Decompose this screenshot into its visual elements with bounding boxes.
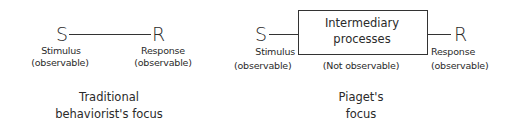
caption-line2: focus: [346, 109, 377, 121]
box-line2: processes: [333, 34, 390, 46]
stimulus-symbol: S: [56, 25, 68, 44]
s-box-connector: [269, 34, 299, 35]
stimulus-sublabel: (observable): [31, 58, 89, 68]
caption-line1: Traditional: [79, 92, 139, 104]
caption-line1: Piaget's: [339, 92, 384, 104]
box-r-connector: [428, 34, 451, 35]
stimulus-label: Stimulus: [41, 46, 81, 56]
stimulus-symbol: S: [255, 25, 267, 44]
response-symbol: R: [152, 25, 165, 44]
s-r-connector: [69, 34, 151, 35]
response-symbol: R: [454, 25, 467, 44]
response-sublabel: (observable): [134, 58, 192, 68]
response-sublabel: (observable): [431, 61, 489, 71]
response-label: Response: [431, 47, 475, 57]
box-sublabel: (Not observable): [323, 61, 399, 71]
box-line1: Intermediary: [325, 18, 399, 30]
caption-line2: behaviorist's focus: [55, 109, 163, 121]
stimulus-sublabel: (observable): [234, 61, 292, 71]
stimulus-label: Stimulus: [255, 47, 295, 57]
response-label: Response: [141, 46, 185, 56]
